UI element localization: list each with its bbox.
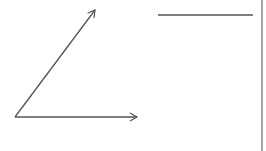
- diagram-canvas: [0, 0, 266, 151]
- diagonal-arrow: [15, 10, 95, 117]
